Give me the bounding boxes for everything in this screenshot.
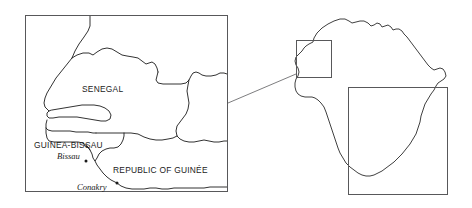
- senegal-northern-border: [72, 48, 158, 72]
- inset-leader-line: [228, 74, 296, 103]
- guinea-northern-border: [96, 133, 177, 140]
- inset-crop-rectangle: [349, 88, 448, 195]
- inset-highlight-box: [297, 41, 332, 78]
- city-dot-bissau: [85, 160, 88, 163]
- label-republic-of-guinee: REPUBLIC OF GUINÉE: [113, 165, 208, 175]
- senegal-casamance-coast: [46, 120, 96, 133]
- label-conakry: Conakry: [77, 182, 107, 192]
- africa-continent-outline: [295, 19, 446, 176]
- senegal-mali-eastern-border: [156, 72, 227, 84]
- label-guinea-bissau: GUINEA-BISSAU: [34, 140, 103, 150]
- label-senegal: SENEGAL: [82, 84, 123, 94]
- map-svg-canvas: SENEGAL GUINEA-BISSAU REPUBLIC OF GUINÉE…: [0, 0, 472, 208]
- main-map-geography: [44, 15, 227, 189]
- africa-inset-group: [295, 19, 448, 195]
- gambia-outline: [47, 105, 111, 121]
- senegal-atlantic-coast: [44, 58, 72, 111]
- main-map-labels: SENEGAL GUINEA-BISSAU REPUBLIC OF GUINÉE…: [34, 84, 208, 192]
- mauritania-senegal-border-north: [72, 15, 90, 58]
- locator-map-figure: SENEGAL GUINEA-BISSAU REPUBLIC OF GUINÉE…: [0, 0, 472, 208]
- city-dot-conakry: [116, 182, 119, 185]
- mali-guinea-border: [176, 80, 227, 142]
- label-bissau: Bissau: [57, 151, 80, 161]
